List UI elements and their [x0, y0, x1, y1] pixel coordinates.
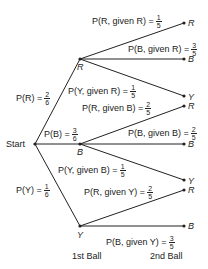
- fraction: 15: [156, 14, 162, 29]
- node-first-y: Y: [77, 231, 83, 240]
- fraction: 25: [191, 126, 197, 141]
- fraction: 35: [169, 235, 175, 250]
- prob-r-given-b: P(R, given B) = 25: [82, 101, 151, 116]
- first-ball-label: 1st Ball: [72, 252, 102, 261]
- fraction: 25: [147, 185, 153, 200]
- fraction: 15: [120, 163, 126, 178]
- node-first-b: B: [77, 148, 83, 157]
- end-b-r: R: [188, 102, 195, 111]
- end-r-r: R: [188, 19, 195, 28]
- prob-b-given-r: P(B, given R) = 35: [128, 42, 197, 57]
- fraction: 35: [191, 42, 197, 57]
- prob-r-given-y: P(R, given Y) = 25: [84, 185, 153, 200]
- end-b-b: B: [188, 140, 194, 149]
- second-ball-label: 2nd Ball: [150, 252, 183, 261]
- fraction: 25: [145, 101, 151, 116]
- prob-y-given-r: P(Y, given R) = 15: [68, 84, 136, 99]
- prob-r: P(R) = 26: [16, 91, 50, 106]
- end-y-r: R: [188, 186, 195, 195]
- prob-r-given-r: P(R, given R) = 15: [92, 14, 162, 29]
- prob-b: P(B) = 36: [44, 127, 78, 142]
- prob-b-given-y: P(B, given Y) = 35: [106, 235, 175, 250]
- fraction: 36: [72, 127, 78, 142]
- end-y-b: B: [188, 222, 194, 231]
- start-label: Start: [6, 140, 25, 149]
- prob-b-given-b: P(B, given B) = 25: [128, 126, 197, 141]
- node-first-r: R: [77, 63, 84, 72]
- fraction: 16: [44, 183, 50, 198]
- fraction: 15: [130, 84, 136, 99]
- prob-y-given-b: P(Y, given B) = 15: [58, 163, 126, 178]
- fraction: 26: [44, 91, 50, 106]
- prob-y: P(Y) = 16: [16, 183, 50, 198]
